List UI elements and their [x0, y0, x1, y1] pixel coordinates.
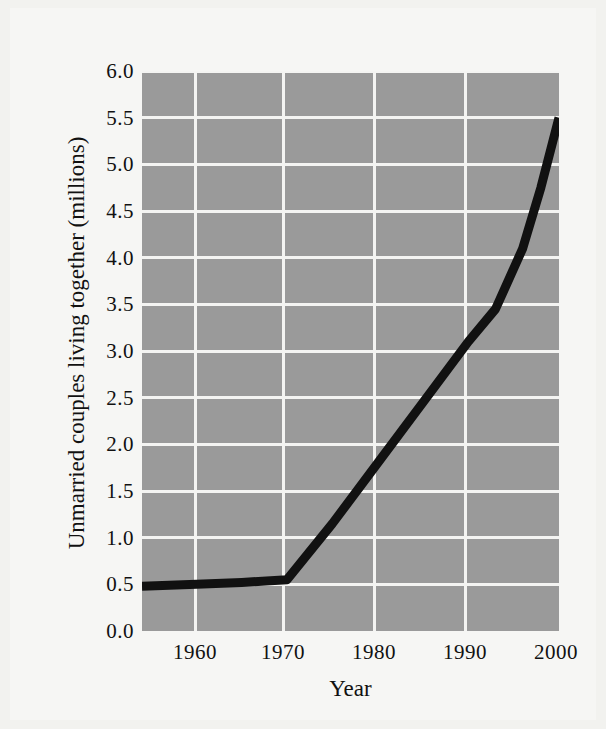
x-tick-label: 1990	[420, 642, 510, 663]
x-tick-label: 1970	[238, 642, 328, 663]
y-tick-label: 0.0	[64, 621, 134, 642]
x-tick-label: 1960	[150, 642, 240, 663]
figure-root: Unmarried couples living together (milli…	[0, 0, 606, 729]
y-tick-label: 2.0	[64, 434, 134, 455]
y-tick-label: 0.5	[64, 574, 134, 595]
y-axis-title-wrapper: Unmarried couples living together (milli…	[20, 8, 50, 708]
y-tick-label: 6.0	[64, 61, 134, 82]
y-tick-label: 4.0	[64, 248, 134, 269]
x-tick-label: 1980	[329, 642, 419, 663]
x-axis-title: Year	[142, 676, 559, 702]
y-tick-label: 3.0	[64, 341, 134, 362]
y-tick-label: 3.5	[64, 294, 134, 315]
figure-paper: Unmarried couples living together (milli…	[10, 8, 596, 720]
y-axis-tick-labels: 6.0 5.5 5.0 4.5 4.0 3.5 3.0 2.5 2.0 1.5 …	[52, 71, 134, 631]
y-tick-label: 5.0	[64, 154, 134, 175]
x-axis-tick-labels: 1960 1970 1980 1990 2000	[142, 642, 559, 672]
y-tick-label: 4.5	[64, 201, 134, 222]
x-tick-label: 2000	[511, 642, 601, 663]
y-tick-label: 5.5	[64, 108, 134, 129]
y-tick-label: 1.5	[64, 481, 134, 502]
data-series-line	[142, 118, 559, 587]
data-line-chart	[142, 71, 559, 631]
plot-area	[142, 71, 559, 631]
y-tick-label: 2.5	[64, 388, 134, 409]
y-tick-label: 1.0	[64, 528, 134, 549]
